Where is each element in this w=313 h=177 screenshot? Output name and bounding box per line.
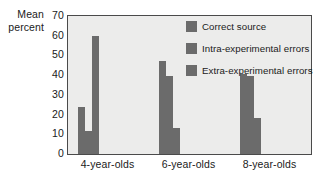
legend-label: Intra-experimental errors <box>202 43 309 54</box>
y-axis-tick-labels: 010203040506070 <box>42 0 64 177</box>
x-axis-tick-label: 8-year-olds <box>243 158 297 170</box>
bar <box>78 107 85 154</box>
x-axis-tick-label: 4-year-olds <box>81 158 135 170</box>
legend-label: Extra-experimental errors <box>202 65 313 76</box>
chart-legend: Correct sourceIntra-experimental errorsE… <box>186 17 312 83</box>
legend-label: Correct source <box>202 21 266 32</box>
x-axis-tick-labels: 4-year-olds6-year-olds8-year-olds <box>67 158 310 174</box>
y-axis-tick-label: 50 <box>42 48 64 60</box>
y-axis-tick-label: 10 <box>42 127 64 139</box>
bar <box>247 76 254 154</box>
y-axis-tick-label: 60 <box>42 29 64 41</box>
y-axis-tick-label: 70 <box>42 9 64 21</box>
bar <box>166 76 173 154</box>
legend-item: Extra-experimental errors <box>186 61 312 79</box>
y-axis-title: Mean percent <box>0 8 44 33</box>
legend-swatch-icon <box>186 65 197 76</box>
legend-item: Intra-experimental errors <box>186 39 312 57</box>
bar-group <box>68 16 149 154</box>
x-axis-tick-label: 6-year-olds <box>162 158 216 170</box>
bar <box>173 128 180 154</box>
legend-item: Correct source <box>186 17 312 35</box>
y-axis-tick-label: 40 <box>42 68 64 80</box>
y-axis-title-line-2: percent <box>0 21 44 34</box>
bar <box>159 61 166 154</box>
y-axis-tick-label: 20 <box>42 108 64 120</box>
y-axis-tick-label: 30 <box>42 88 64 100</box>
bar <box>92 36 99 154</box>
y-axis-tick-label: 0 <box>42 147 64 159</box>
bar <box>254 118 261 154</box>
legend-swatch-icon <box>186 43 197 54</box>
bar-chart-figure: Mean percent 010203040506070 4-year-olds… <box>0 0 313 177</box>
legend-swatch-icon <box>186 21 197 32</box>
y-axis-title-line-1: Mean <box>0 8 44 21</box>
bar <box>85 131 92 154</box>
bar <box>240 74 247 154</box>
